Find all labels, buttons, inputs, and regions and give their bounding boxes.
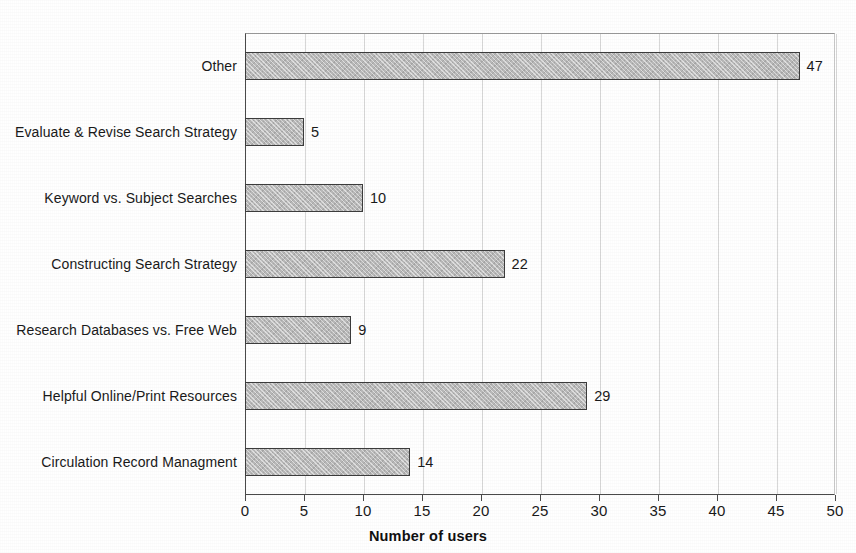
category-label: Other	[0, 58, 237, 75]
x-axis-title: Number of users	[0, 528, 856, 544]
x-tick-25	[540, 495, 541, 501]
bar-value-label: 29	[594, 388, 610, 404]
bar-chart: Number of users 0510152025303540455047Ot…	[0, 0, 856, 553]
gridline-50	[836, 34, 837, 494]
category-label: Keyword vs. Subject Searches	[0, 190, 237, 207]
x-tick-10	[363, 495, 364, 501]
bar-value-label: 5	[311, 124, 319, 140]
x-tick-40	[717, 495, 718, 501]
x-tick-35	[658, 495, 659, 501]
bar	[245, 52, 800, 80]
x-tick-label-20: 20	[461, 502, 501, 519]
x-tick-30	[599, 495, 600, 501]
bar	[245, 118, 304, 146]
gridline-40	[718, 34, 719, 494]
category-label: Research Databases vs. Free Web	[0, 322, 237, 339]
category-label: Constructing Search Strategy	[0, 256, 237, 273]
bar-value-label: 9	[358, 322, 366, 338]
x-tick-label-30: 30	[579, 502, 619, 519]
gridline-30	[600, 34, 601, 494]
x-tick-label-45: 45	[756, 502, 796, 519]
x-tick-50	[835, 495, 836, 501]
gridline-45	[777, 34, 778, 494]
bar	[245, 382, 587, 410]
category-label: Circulation Record Managment	[0, 454, 237, 471]
bar-value-label: 14	[417, 454, 433, 470]
x-tick-label-25: 25	[520, 502, 560, 519]
x-tick-45	[776, 495, 777, 501]
bar-value-label: 10	[370, 190, 386, 206]
x-tick-label-0: 0	[225, 502, 265, 519]
x-tick-label-35: 35	[638, 502, 678, 519]
x-tick-label-5: 5	[284, 502, 324, 519]
x-tick-0	[245, 495, 246, 501]
bar-value-label: 47	[807, 58, 823, 74]
x-tick-label-40: 40	[697, 502, 737, 519]
bar-value-label: 22	[512, 256, 528, 272]
bar	[245, 250, 505, 278]
x-tick-5	[304, 495, 305, 501]
x-tick-20	[481, 495, 482, 501]
gridline-25	[541, 34, 542, 494]
x-tick-label-15: 15	[402, 502, 442, 519]
bar	[245, 184, 363, 212]
bar	[245, 316, 351, 344]
x-tick-label-10: 10	[343, 502, 383, 519]
category-label: Evaluate & Revise Search Strategy	[0, 124, 237, 141]
x-tick-15	[422, 495, 423, 501]
gridline-35	[659, 34, 660, 494]
bar	[245, 448, 410, 476]
category-label: Helpful Online/Print Resources	[0, 388, 237, 405]
x-tick-label-50: 50	[815, 502, 855, 519]
